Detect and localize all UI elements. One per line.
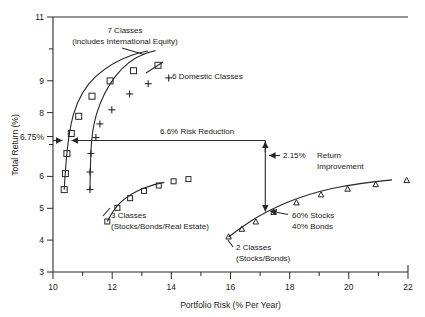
- seven-classes-line2: (includes International Equity): [72, 37, 178, 46]
- y-axis-tick-labels: 11 9 8 6.75% 6 5 4 3: [20, 12, 45, 277]
- y-axis-title: Total Return (%): [10, 114, 20, 176]
- three-classes-line2: (Stocks/Bonds/Real Estate): [111, 222, 209, 231]
- seven-classes-leader: [122, 48, 144, 55]
- y-tick-6: 6: [39, 171, 44, 181]
- annotation-seven-classes: 7 Classes (includes International Equity…: [72, 26, 178, 46]
- y-axis-ticks: [47, 17, 53, 272]
- annotation-sixty-forty: 60% Stocks 40% Bonds: [292, 211, 334, 231]
- y-tick-8: 8: [39, 108, 44, 118]
- two-classes-line2: (Stocks/Bonds): [236, 254, 291, 263]
- annotation-risk-reduction: 6.6% Risk Reduction: [160, 127, 234, 136]
- return-improvement-line2: Improvement: [317, 162, 364, 171]
- plot-axes: [53, 17, 408, 272]
- return-improvement-line1: Return: [317, 151, 341, 160]
- sixty-forty-line1: 60% Stocks: [292, 211, 334, 220]
- sixty-forty-line2: 40% Bonds: [292, 222, 333, 231]
- x-tick-10: 10: [48, 282, 58, 292]
- x-tick-12: 12: [107, 282, 117, 292]
- x-tick-22: 22: [403, 282, 413, 292]
- y-tick-3: 3: [39, 267, 44, 277]
- x-tick-20: 20: [344, 282, 354, 292]
- y-tick-4: 4: [39, 235, 44, 245]
- x-tick-18: 18: [285, 282, 295, 292]
- series-6-domestic-curve: [90, 51, 156, 190]
- annotation-return-improvement: 2.15% Return Improvement: [283, 151, 364, 171]
- annotation-three-classes: 3 Classes (Stocks/Bonds/Real Estate): [111, 211, 209, 231]
- three-classes-leader: [103, 208, 110, 216]
- series-7-classes: [61, 51, 161, 193]
- x-axis-tick-labels: 10 12 14 16 18 20 22: [48, 282, 413, 292]
- y-tick-5: 5: [39, 203, 44, 213]
- return-improvement-value: 2.15%: [283, 151, 306, 160]
- annotation-two-classes: 2 Classes (Stocks/Bonds): [236, 243, 291, 263]
- y-tick-675: 6.75%: [20, 132, 45, 142]
- three-classes-line1: 3 Classes: [111, 211, 146, 220]
- series-6-domestic: [87, 51, 173, 194]
- chart-figure: 11 9 8 6.75% 6 5 4 3 10: [0, 0, 425, 317]
- x-tick-16: 16: [226, 282, 236, 292]
- chart-canvas: 11 9 8 6.75% 6 5 4 3 10: [0, 0, 425, 317]
- two-classes-line1: 2 Classes: [236, 243, 271, 252]
- y-tick-11: 11: [35, 12, 44, 22]
- annotation-six-domestic: 6 Domestic Classes: [172, 72, 243, 81]
- x-axis-ticks: [53, 272, 408, 279]
- series-7-classes-curve: [64, 51, 148, 190]
- seven-classes-line1: 7 Classes: [107, 26, 142, 35]
- two-classes-leader: [228, 240, 233, 247]
- x-axis-title: Portfolio Risk (% Per Year): [180, 300, 281, 310]
- y-tick-9: 9: [39, 76, 44, 86]
- x-tick-14: 14: [167, 282, 177, 292]
